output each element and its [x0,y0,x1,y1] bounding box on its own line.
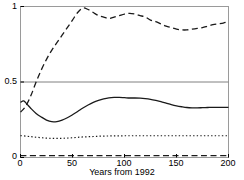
x-axis-tick-label-0: 0 [9,159,31,168]
y-axis-tick-label-0-5: 0.5 [0,77,17,86]
x-axis-tick-label-200: 200 [217,159,239,168]
x-axis-tick-label-50: 50 [61,159,83,168]
middle-solid-curve [21,97,229,121]
x-axis-tick-label-150: 150 [165,159,187,168]
y-axis-tick-label-1: 1 [0,2,17,11]
x-axis-title: Years from 1992 [0,168,244,177]
lower-dotted-curve [21,136,229,139]
chart-container: 1 0.5 0 0 50 100 150 200 Years from 1992 [0,0,244,180]
upper-dashed-curve [21,8,229,112]
chart-plot-area [0,0,244,180]
